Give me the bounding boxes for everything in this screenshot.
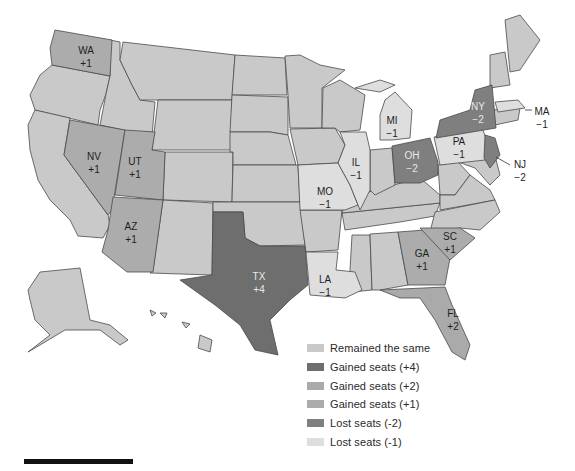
state-ma	[495, 100, 525, 112]
label-ut-abbr: UT	[128, 156, 141, 167]
nj-leader-line	[496, 157, 510, 165]
label-pa-change: −1	[453, 149, 465, 160]
label-ma-abbr: MA	[535, 106, 550, 117]
legend-item-gain1: Gained seats (+1)	[307, 395, 430, 414]
label-oh-abbr: OH	[405, 150, 420, 161]
label-nj-abbr: NJ	[514, 159, 526, 170]
label-la-abbr: LA	[319, 274, 332, 285]
label-az-abbr: AZ	[125, 221, 138, 232]
legend-swatch	[307, 419, 324, 427]
legend-swatch	[307, 363, 324, 371]
state-ia	[290, 128, 345, 165]
legend-item-same: Remained the same	[307, 339, 430, 358]
legend-swatch	[307, 382, 324, 390]
state-co	[163, 152, 233, 202]
label-mi-change: −1	[386, 128, 398, 139]
legend-label: Gained seats (+1)	[330, 398, 419, 410]
legend-swatch	[307, 344, 324, 352]
label-ut-change: +1	[129, 169, 141, 180]
label-wa-abbr: WA	[78, 45, 94, 56]
label-ma-change: −1	[536, 119, 548, 130]
state-nd	[232, 55, 287, 95]
label-pa-abbr: PA	[453, 136, 466, 147]
legend-swatch	[307, 438, 324, 446]
label-nv-abbr: NV	[87, 151, 101, 162]
label-nj-change: −2	[514, 172, 526, 183]
label-nv-change: +1	[88, 164, 100, 175]
label-sc-abbr: SC	[443, 231, 457, 242]
legend-item-lost2: Lost seats (-2)	[307, 414, 430, 433]
us-map: WA +1 NV +1 UT +1 AZ +1 TX +4 LA −1 MO −…	[0, 0, 575, 471]
label-ny-abbr: NY	[471, 101, 485, 112]
legend-label: Lost seats (-1)	[330, 436, 402, 448]
legend-swatch	[307, 400, 324, 408]
state-mt	[120, 42, 235, 100]
label-oh-change: −2	[406, 163, 418, 174]
state-wy	[152, 100, 232, 150]
label-az-change: +1	[125, 234, 137, 245]
label-fl-change: +2	[447, 321, 459, 332]
legend-label: Gained seats (+4)	[330, 361, 419, 373]
state-ar	[300, 210, 342, 252]
legend-item-gain4: Gained seats (+4)	[307, 358, 430, 377]
state-ny	[436, 85, 496, 138]
label-tx-change: +4	[253, 284, 265, 295]
label-il-abbr: IL	[352, 157, 361, 168]
legend-item-gain2: Gained seats (+2)	[307, 376, 430, 395]
state-ne	[230, 132, 296, 165]
state-ak	[28, 268, 128, 352]
label-il-change: −1	[350, 170, 362, 181]
state-ks	[232, 165, 300, 202]
label-ga-change: +1	[416, 261, 428, 272]
label-la-change: −1	[319, 287, 331, 298]
label-ga-abbr: GA	[415, 248, 430, 259]
legend-label: Lost seats (-2)	[330, 417, 402, 429]
label-ny-change: −2	[472, 114, 484, 125]
state-hi	[150, 310, 212, 352]
label-wa-change: +1	[80, 58, 92, 69]
label-tx-abbr: TX	[253, 271, 266, 282]
label-sc-change: +1	[444, 244, 456, 255]
scale-bar	[24, 459, 133, 464]
map-legend: Remained the same Gained seats (+4) Gain…	[307, 339, 430, 451]
legend-item-lost1: Lost seats (-1)	[307, 432, 430, 451]
state-mi	[355, 80, 412, 140]
label-mo-abbr: MO	[317, 186, 333, 197]
label-mo-change: −1	[319, 199, 331, 210]
legend-label: Remained the same	[330, 342, 430, 354]
label-fl-abbr: FL	[447, 308, 459, 319]
legend-label: Gained seats (+2)	[330, 380, 419, 392]
label-mi-abbr: MI	[386, 115, 397, 126]
state-me	[505, 15, 540, 72]
state-sd	[230, 95, 288, 135]
state-vt-nh	[490, 52, 510, 88]
